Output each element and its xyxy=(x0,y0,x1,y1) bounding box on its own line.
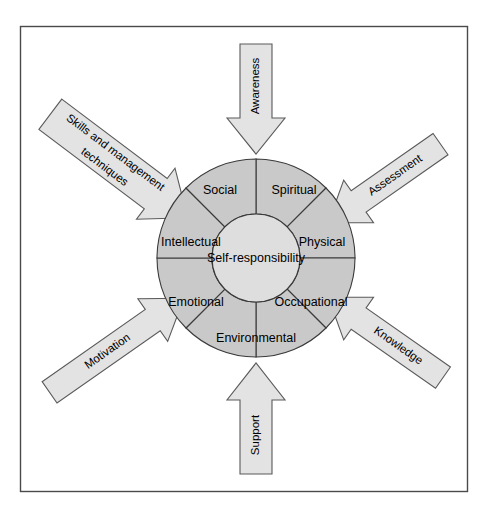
arrow-awareness: Awareness xyxy=(227,44,285,154)
sector-label-environmental: Environmental xyxy=(216,331,296,345)
wellness-wheel-diagram: Awareness Support Skills and management … xyxy=(0,0,491,517)
wellness-wheel: Spiritual Physical Occupational Environm… xyxy=(157,159,355,357)
arrow-label-support: Support xyxy=(249,414,261,455)
sector-label-occupational: Occupational xyxy=(275,295,348,309)
diagram-canvas: Awareness Support Skills and management … xyxy=(0,0,491,517)
sector-label-spiritual: Spiritual xyxy=(271,183,316,197)
sector-label-physical: Physical xyxy=(299,235,346,249)
arrow-label-awareness: Awareness xyxy=(249,57,261,114)
sector-label-emotional: Emotional xyxy=(168,295,224,309)
arrow-support: Support xyxy=(227,363,285,474)
sector-label-social: Social xyxy=(203,183,237,197)
hub-label: Self-responsibility xyxy=(207,251,306,265)
sector-label-intellectual: Intellectual xyxy=(161,235,221,249)
